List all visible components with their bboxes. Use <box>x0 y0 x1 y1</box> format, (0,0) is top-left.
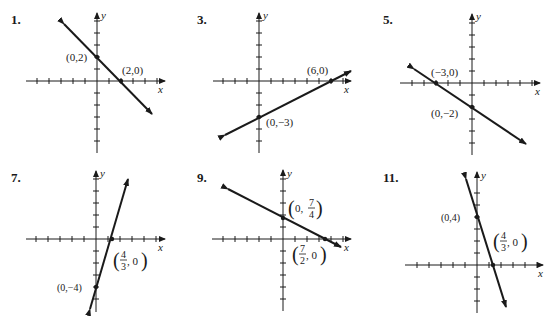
line-graph-11 <box>466 179 506 307</box>
graph-sheet: 1. 3. 5. 7. 9. 11. <box>0 0 560 324</box>
svg-text:(: ( <box>288 197 295 220</box>
svg-text:4: 4 <box>309 209 314 220</box>
svg-text:): ) <box>521 230 528 253</box>
svg-text:2: 2 <box>300 255 305 266</box>
point-label-6-0: (6,0) <box>307 64 328 77</box>
point-x-intercept <box>434 81 438 85</box>
x-axis-label: x <box>157 241 163 253</box>
svg-text:0,: 0, <box>295 202 304 214</box>
graph-11: y x (0,4) ( 4 3 , 0 ) <box>405 169 543 313</box>
graph-3: y x (6,0) (0,−3) <box>213 9 351 153</box>
problem-number-7: 7. <box>11 170 21 186</box>
point-y-intercept <box>475 215 479 219</box>
svg-text:, 0: , 0 <box>127 255 139 267</box>
svg-text:): ) <box>141 249 148 272</box>
point-label-0-4: (0,4) <box>441 212 460 224</box>
point-x-intercept <box>110 237 114 241</box>
y-axis-label: y <box>262 9 268 21</box>
x-axis-label: x <box>343 241 349 253</box>
point-x-intercept <box>323 237 327 241</box>
graph-7: y x (0,−4) ( 4 3 , 0 ) <box>26 167 165 312</box>
point-y-intercept <box>281 216 285 220</box>
graph-9: y x ( 0, 7 4 ) ( 7 2 , 0 ) <box>212 167 351 311</box>
x-axis-label: x <box>343 83 349 95</box>
point-label-7-2-0: ( 7 2 , 0 ) <box>292 243 327 266</box>
x-axis-label: x <box>537 267 543 279</box>
y-axis-label: y <box>99 167 105 179</box>
point-label-0-neg3: (0,−3) <box>266 116 294 129</box>
svg-text:): ) <box>320 243 327 266</box>
problem-number-11: 11. <box>383 170 399 186</box>
svg-text:3: 3 <box>121 261 126 272</box>
point-x-intercept <box>491 263 495 267</box>
problem-number-1: 1. <box>11 12 21 28</box>
y-axis-label: y <box>100 9 106 21</box>
y-axis-label: y <box>480 169 486 181</box>
svg-text:): ) <box>316 197 323 220</box>
point-y-intercept <box>257 115 261 119</box>
problem-number-3: 3. <box>197 12 207 28</box>
svg-text:, 0: , 0 <box>507 236 519 248</box>
point-label-4-3-0: ( 4 3 , 0 ) <box>493 230 528 253</box>
point-label-neg3-0: (−3,0) <box>431 66 459 79</box>
point-label-2-0: (2,0) <box>122 64 143 77</box>
point-x-intercept <box>119 79 123 83</box>
svg-text:3: 3 <box>501 242 506 253</box>
graph-1: y x (0,2) (2,0) <box>26 9 165 153</box>
problem-number-5: 5. <box>383 12 393 28</box>
svg-text:, 0: , 0 <box>306 249 318 261</box>
point-y-intercept <box>94 285 98 289</box>
svg-text:(: ( <box>113 249 120 272</box>
point-y-intercept <box>95 55 99 59</box>
point-label-0-neg4: (0,−4) <box>57 282 82 294</box>
svg-text:4: 4 <box>121 249 126 260</box>
point-label-0-7-4: ( 0, 7 4 ) <box>288 197 323 220</box>
svg-text:(: ( <box>493 230 500 253</box>
svg-text:4: 4 <box>501 230 506 241</box>
point-label-4-3-0: ( 4 3 , 0 ) <box>113 249 148 272</box>
graph-5: y x (−3,0) (0,−2) <box>400 10 540 155</box>
svg-text:7: 7 <box>300 243 305 254</box>
svg-text:(: ( <box>292 243 299 266</box>
point-label-0-neg2: (0,−2) <box>431 107 459 120</box>
x-axis-label: x <box>157 83 163 95</box>
point-y-intercept <box>470 105 474 109</box>
y-axis-label: y <box>475 10 481 22</box>
graphs-canvas: y x (0,2) (2,0) y x (6,0) (0,−3) <box>0 0 560 324</box>
point-x-intercept <box>329 79 333 83</box>
y-axis-label: y <box>286 167 292 179</box>
point-label-0-2: (0,2) <box>66 51 87 64</box>
svg-text:7: 7 <box>309 197 314 208</box>
x-axis-label: x <box>534 85 540 97</box>
problem-number-9: 9. <box>197 170 207 186</box>
